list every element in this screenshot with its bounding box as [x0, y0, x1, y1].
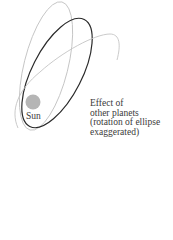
- caption: Effect of other planets (rotation of ell…: [90, 99, 160, 137]
- sun-icon: [26, 95, 41, 110]
- caption-line: exaggerated): [90, 128, 160, 138]
- sun-label: Sun: [26, 112, 41, 122]
